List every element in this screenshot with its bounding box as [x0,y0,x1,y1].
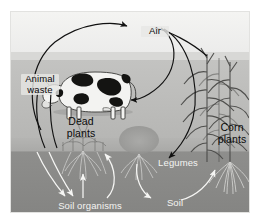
arrow-legumes-to-soil [137,164,151,198]
label-animal-waste: Animal waste [21,74,59,95]
label-air: Air [141,26,169,37]
arrow-soil-to-corn-roots [181,170,215,200]
diagram-canvas: Air Animal waste Dead plants Soil organi… [0,0,261,224]
label-legumes: Legumes [156,158,200,169]
arrow-soil-organisms-a [37,152,65,196]
label-soil-organisms: Soil organisms [47,201,133,212]
label-soil: Soil [163,198,187,209]
white-arrow-layer [11,12,249,212]
illustration-frame: Air Animal waste Dead plants Soil organi… [11,12,249,212]
label-corn-plants: Corn plants [215,122,249,145]
arrow-soil-organisms-b [49,152,73,196]
arrow-roots-curve [105,154,114,198]
label-dead-plants: Dead plants [61,116,101,139]
